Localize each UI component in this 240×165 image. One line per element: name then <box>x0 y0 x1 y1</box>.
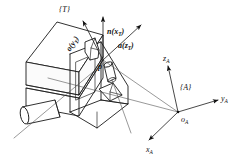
label-oa: oA <box>181 115 189 125</box>
label-a-zt: a(zT) <box>118 41 134 51</box>
svg-text:yA: yA <box>220 94 229 104</box>
label-xa-sub: A <box>149 149 154 155</box>
base-frame-label: {A} <box>180 83 192 92</box>
label-ya-sub: A <box>224 98 229 104</box>
label-za-sub: A <box>165 58 170 64</box>
svg-text:a(zT): a(zT) <box>118 41 134 51</box>
base-frame-origin-dot <box>177 111 180 114</box>
label-n-xt: n(xT) <box>107 27 124 37</box>
mounting-shaft <box>19 100 60 125</box>
axis-xa <box>149 112 178 140</box>
svg-text:xA: xA <box>145 145 154 155</box>
label-ya: yA <box>220 94 229 104</box>
svg-text:zA: zA <box>162 54 170 64</box>
label-n-paren-close: ) <box>120 27 124 36</box>
label-oa-sub: A <box>184 119 189 125</box>
axis-ya <box>178 100 218 112</box>
diagram-canvas: {T} n(xT) o(yT) a(zT) p {A} zA <box>0 0 240 165</box>
figure-root: {T} n(xT) o(yT) a(zT) p {A} zA <box>0 0 240 165</box>
axis-za <box>168 66 178 112</box>
tool-origin-marker: p <box>97 62 102 71</box>
label-a-paren-close: ) <box>130 41 134 50</box>
label-xa: xA <box>145 145 154 155</box>
tool-frame-label: {T} <box>59 5 71 14</box>
svg-text:oA: oA <box>181 115 189 125</box>
base-frame-axes <box>149 66 218 140</box>
label-za: zA <box>162 54 170 64</box>
svg-text:n(xT): n(xT) <box>107 27 124 37</box>
